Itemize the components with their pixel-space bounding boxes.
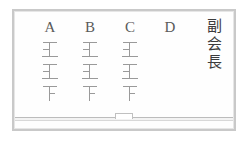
tally-mark-d3: [150, 81, 190, 103]
tally-glyph-partial: [41, 84, 59, 102]
tally-mark-a3: [30, 81, 70, 103]
tally-mark-a2: [30, 59, 70, 81]
tally-mark-d2: [150, 59, 190, 81]
tally-cell-c1: [110, 37, 150, 59]
column-header-c: C: [110, 17, 150, 37]
column-header-b: B: [70, 17, 110, 37]
tally-cell-b1: [70, 37, 110, 59]
whiteboard: A B C D: [12, 9, 236, 131]
whiteboard-tray-clip: [115, 113, 133, 119]
column-header-d: D: [150, 17, 190, 37]
tally-column-d: D: [150, 17, 190, 37]
vertical-title-char-1: 副: [204, 17, 224, 35]
tally-column-b: B: [70, 17, 110, 37]
tally-mark-a1: [30, 37, 70, 59]
tally-cell-a3: [30, 81, 70, 103]
tally-glyph-partial: [81, 84, 99, 102]
tally-mark-row-1: [30, 37, 190, 59]
tally-cell-c2: [110, 59, 150, 81]
tally-cell-b2: [70, 59, 110, 81]
tally-mark-b2: [70, 59, 110, 81]
vertical-title-char-2: 会: [204, 35, 224, 53]
tally-glyph-partial: [121, 84, 139, 102]
tally-mark-b1: [70, 37, 110, 59]
tally-cell-b3: [70, 81, 110, 103]
tally-glyph-zheng: [121, 62, 139, 80]
tally-cell-d1: [150, 37, 190, 59]
column-header-a: A: [30, 17, 70, 37]
tally-glyph-zheng: [81, 40, 99, 58]
tally-mark-c2: [110, 59, 150, 81]
tally-cell-d2: [150, 59, 190, 81]
tally-cell-a2: [30, 59, 70, 81]
tally-header-row: A B C D: [30, 17, 190, 37]
tally-cell-a1: [30, 37, 70, 59]
tally-glyph-zheng: [41, 62, 59, 80]
tally-mark-row-3: [30, 81, 190, 103]
vertical-title-char-3: 長: [204, 53, 224, 71]
tally-mark-c3: [110, 81, 150, 103]
tally-mark-row-2: [30, 59, 190, 81]
tally-mark-c1: [110, 37, 150, 59]
tally-glyph-zheng: [41, 40, 59, 58]
tally-mark-d1: [150, 37, 190, 59]
vertical-title-vice-president: 副 会 長: [204, 17, 224, 71]
tally-mark-b3: [70, 81, 110, 103]
tally-column-c: C: [110, 17, 150, 37]
vote-tally-table: A B C D: [30, 17, 190, 103]
tally-column-a: A: [30, 17, 70, 37]
tally-cell-d3: [150, 81, 190, 103]
tally-glyph-zheng: [121, 40, 139, 58]
tally-glyph-zheng: [81, 62, 99, 80]
tally-cell-c3: [110, 81, 150, 103]
